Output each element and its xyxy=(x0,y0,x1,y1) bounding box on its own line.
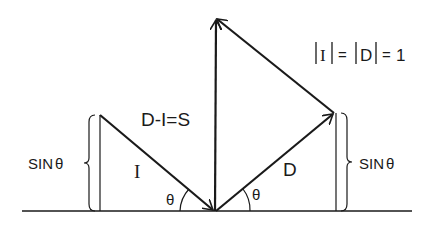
svg-text:I: I xyxy=(320,46,326,65)
vector-diagram: D-I=S I D SINθ SINθ θ θ I = D = 1 xyxy=(0,0,431,228)
diffracted-vector-D xyxy=(216,114,333,211)
svg-text:D: D xyxy=(360,46,372,65)
sin-theta-left: SINθ xyxy=(28,155,63,172)
equation-label: D-I=S xyxy=(141,109,190,130)
incident-label: I xyxy=(134,161,140,182)
vector-S xyxy=(215,20,216,211)
negative-I-vector xyxy=(217,19,334,113)
right-brace xyxy=(341,113,352,211)
theta-left: θ xyxy=(166,191,174,208)
diffracted-label: D xyxy=(283,159,297,180)
left-brace xyxy=(84,115,95,211)
norm-equation: I = D = 1 xyxy=(316,42,405,65)
svg-text:=: = xyxy=(382,46,391,63)
svg-text:1: 1 xyxy=(396,46,405,65)
theta-right: θ xyxy=(252,186,260,203)
svg-text:=: = xyxy=(338,46,347,63)
sin-theta-right: SINθ xyxy=(359,155,394,172)
angle-arc-right xyxy=(243,189,250,211)
angle-arc-left xyxy=(180,189,189,211)
